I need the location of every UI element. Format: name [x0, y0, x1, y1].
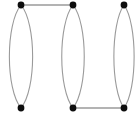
graph-edge [21, 5, 33, 108]
graph-node [70, 105, 77, 112]
edge-layer [9, 5, 134, 108]
graph-edge [62, 5, 73, 108]
graph-edge [124, 5, 134, 108]
graph-node [18, 2, 25, 9]
graph-node [121, 2, 128, 9]
graph-node [121, 105, 128, 112]
node-layer [18, 2, 128, 112]
graph-node [70, 2, 77, 9]
graph-edge [114, 5, 124, 108]
graph-node [18, 105, 25, 112]
graph-edge [73, 5, 84, 108]
graph-figure [0, 0, 140, 114]
graph-canvas [0, 0, 140, 114]
graph-edge [9, 5, 21, 108]
